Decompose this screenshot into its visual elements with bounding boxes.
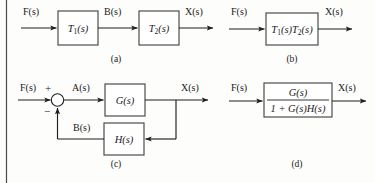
panel-c: F(s) + − A(s) G(s) X(s) H(s) B(s) (c) [18,82,208,170]
panel-c-output-label: X(s) [181,82,199,94]
panel-a-input-label: F(s) [23,6,39,18]
panel-d-block-1-denominator: 1 + G(s)H(s) [271,103,326,115]
block-diagram-figure: F(s) T1(s) B(s) T2(s) X(s) (a) F(s) T1(s… [0,0,375,183]
panel-b-input-label: F(s) [231,6,247,18]
panel-c-error-label: A(s) [72,82,90,94]
panel-c-feedback-label: B(s) [73,122,90,134]
panel-c-block-forward-label: G(s) [116,95,135,107]
panel-a-intermediate-label: B(s) [104,6,121,18]
panel-c-summing-junction [51,94,63,106]
panel-d: F(s) G(s) 1 + G(s)H(s) X(s) (d) [229,82,366,170]
panel-a-caption: (a) [111,54,122,65]
panel-c-caption: (c) [111,159,122,170]
panel-d-block-1-numerator: G(s) [289,87,308,99]
diagram-canvas: F(s) T1(s) B(s) T2(s) X(s) (a) F(s) T1(s… [0,0,375,183]
panel-a-output-label: X(s) [185,6,203,18]
panel-b: F(s) T1(s)T2(s) X(s) (b) [229,6,352,65]
panel-c-summer-minus-sign: − [44,105,50,117]
panel-c-summer-plus-sign: + [45,82,51,94]
panel-d-output-label: X(s) [338,82,356,94]
panel-a: F(s) T1(s) B(s) T2(s) X(s) (a) [21,6,213,65]
panel-d-caption: (d) [291,159,302,170]
panel-b-output-label: X(s) [325,6,343,18]
panel-c-input-label: F(s) [20,82,36,94]
panel-d-input-label: F(s) [231,82,247,94]
panel-c-block-feedback-label: H(s) [114,134,134,146]
panel-b-caption: (b) [286,54,297,65]
